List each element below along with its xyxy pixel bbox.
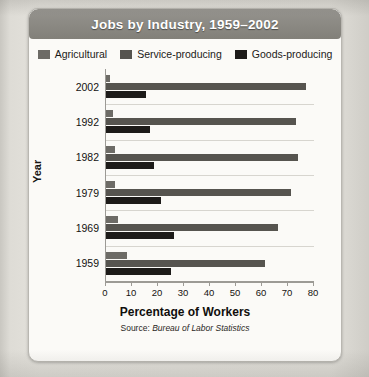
source-note: Source: Bureau of Labor Statistics <box>29 323 341 333</box>
y-tick-label: 1992 <box>76 116 99 128</box>
bar-goods-producing-1982 <box>106 162 154 169</box>
bar-group-2002: 2002 <box>106 69 314 104</box>
chart-card: Jobs by Industry, 1959–2002 Agricultural… <box>28 8 342 362</box>
bar-group-1992: 1992 <box>106 104 314 139</box>
bar-goods-producing-1992 <box>106 126 150 133</box>
y-tick-label: 2002 <box>76 81 99 93</box>
y-tick-label: 1969 <box>76 222 99 234</box>
bar-goods-producing-2002 <box>106 91 146 98</box>
bar-goods-producing-1959 <box>106 268 171 275</box>
x-tick-label: 80 <box>308 287 319 298</box>
bar-service-producing-1969 <box>106 224 278 231</box>
x-tick-label: 30 <box>178 287 189 298</box>
bar-agricultural-2002 <box>106 75 110 82</box>
x-tick <box>131 281 132 286</box>
y-tick-label: 1979 <box>76 187 99 199</box>
legend-label: Goods-producing <box>252 48 333 60</box>
bar-goods-producing-1979 <box>106 197 161 204</box>
x-tick <box>287 281 288 286</box>
bar-group-1959: 1959 <box>106 246 314 281</box>
bar-agricultural-1959 <box>106 252 127 259</box>
x-tick <box>313 281 314 286</box>
x-axis: 01020304050607080 <box>105 281 313 283</box>
bar-agricultural-1982 <box>106 146 115 153</box>
x-tick-label: 10 <box>126 287 137 298</box>
legend-item-service-producing: Service-producing <box>120 48 222 60</box>
bar-service-producing-1982 <box>106 154 298 161</box>
bar-service-producing-2002 <box>106 83 306 90</box>
x-tick <box>209 281 210 286</box>
bar-service-producing-1959 <box>106 260 265 267</box>
x-axis-title: Percentage of Workers <box>29 305 341 319</box>
bar-group-1979: 1979 <box>106 175 314 210</box>
legend-swatch-icon <box>38 50 50 59</box>
legend-label: Agricultural <box>55 48 108 60</box>
legend-swatch-icon <box>120 50 132 59</box>
bar-group-1982: 1982 <box>106 140 314 175</box>
bar-agricultural-1969 <box>106 216 118 223</box>
legend-swatch-icon <box>235 50 247 59</box>
x-tick-label: 20 <box>152 287 163 298</box>
y-tick-label: 1959 <box>76 257 99 269</box>
x-tick-label: 0 <box>102 287 107 298</box>
x-tick-label: 50 <box>230 287 241 298</box>
y-tick-label: 1982 <box>76 151 99 163</box>
x-tick <box>183 281 184 286</box>
source-name: Bureau of Labor Statistics <box>152 323 249 333</box>
x-tick-label: 40 <box>204 287 215 298</box>
x-tick <box>235 281 236 286</box>
bar-service-producing-1992 <box>106 118 296 125</box>
bar-goods-producing-1969 <box>106 232 174 239</box>
bar-agricultural-1992 <box>106 110 113 117</box>
source-prefix: Source: <box>120 323 149 333</box>
bar-group-1969: 1969 <box>106 210 314 245</box>
chart-legend: AgriculturalService-producingGoods-produ… <box>29 43 341 65</box>
x-tick <box>157 281 158 286</box>
y-axis-title: Year <box>31 160 43 183</box>
page-title: Jobs by Industry, 1959–2002 <box>91 17 279 32</box>
x-tick <box>261 281 262 286</box>
legend-item-goods-producing: Goods-producing <box>235 48 333 60</box>
x-tick-label: 60 <box>256 287 267 298</box>
plot-area: Year 200219921982197919691959 0102030405… <box>29 65 341 361</box>
legend-item-agricultural: Agricultural <box>38 48 108 60</box>
bar-rows: 200219921982197919691959 <box>105 69 314 281</box>
bar-agricultural-1979 <box>106 181 115 188</box>
chart-title-banner: Jobs by Industry, 1959–2002 <box>29 9 341 39</box>
bar-service-producing-1979 <box>106 189 291 196</box>
legend-label: Service-producing <box>137 48 222 60</box>
x-tick-label: 70 <box>282 287 293 298</box>
x-tick <box>105 281 106 286</box>
scanned-page-background: Jobs by Industry, 1959–2002 Agricultural… <box>0 0 369 377</box>
